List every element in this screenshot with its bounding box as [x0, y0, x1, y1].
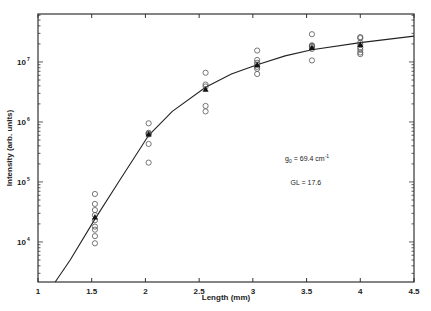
measurement-point: [146, 141, 151, 146]
y-tick-label: 10: [17, 118, 26, 127]
y-axis-title: Intensity (arb. units): [5, 109, 14, 186]
x-tick-label: 1.5: [86, 287, 98, 296]
measurement-point: [92, 241, 97, 246]
x-tick-label: 2: [143, 287, 148, 296]
measurement-point: [203, 70, 208, 75]
measurement-point: [92, 191, 97, 196]
measurement-point: [92, 234, 97, 239]
measurement-point: [146, 121, 151, 126]
fit-curve: [55, 36, 414, 282]
measurement-point: [146, 160, 151, 165]
gl-annotation: GL = 17.6: [290, 179, 321, 186]
y-tick-exponent: 6: [27, 116, 30, 122]
y-tick-label: 10: [17, 238, 26, 247]
x-tick-label: 4: [358, 287, 363, 296]
x-tick-label: 3.5: [301, 287, 313, 296]
y-tick-label: 10: [17, 58, 26, 67]
y-tick-label: 10: [17, 178, 26, 187]
measurement-point: [309, 58, 314, 63]
axis-tick-labels: 11.522.533.544.5104105106107: [17, 56, 420, 296]
gain-annotation: g0 = 69.4 cm-1: [285, 153, 329, 164]
y-tick-exponent: 7: [27, 56, 30, 62]
measurement-point: [203, 103, 208, 108]
y-tick-exponent: 5: [27, 176, 30, 182]
measurement-point: [92, 227, 97, 232]
measurement-point: [203, 109, 208, 114]
x-tick-label: 3: [251, 287, 256, 296]
measurement-point: [92, 201, 97, 206]
x-axis-title: Length (mm): [202, 293, 251, 302]
measurement-point: [255, 71, 260, 76]
measurement-point: [309, 32, 314, 37]
y-tick-exponent: 4: [27, 236, 30, 242]
chart-canvas: 11.522.533.544.5104105106107 Length (mm)…: [0, 0, 431, 311]
x-tick-label: 1: [36, 287, 41, 296]
x-tick-label: 4.5: [408, 287, 420, 296]
measurement-point: [255, 48, 260, 53]
measurement-point: [92, 207, 97, 212]
data-markers: [92, 32, 363, 246]
fit-line-path: [55, 36, 414, 282]
